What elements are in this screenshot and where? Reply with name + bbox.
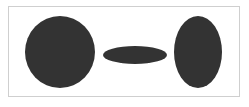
tall-ellipse-shape xyxy=(174,16,222,88)
circle-shape xyxy=(25,16,95,88)
flat-ellipse-shape xyxy=(103,46,167,64)
shapes-canvas xyxy=(0,0,249,107)
